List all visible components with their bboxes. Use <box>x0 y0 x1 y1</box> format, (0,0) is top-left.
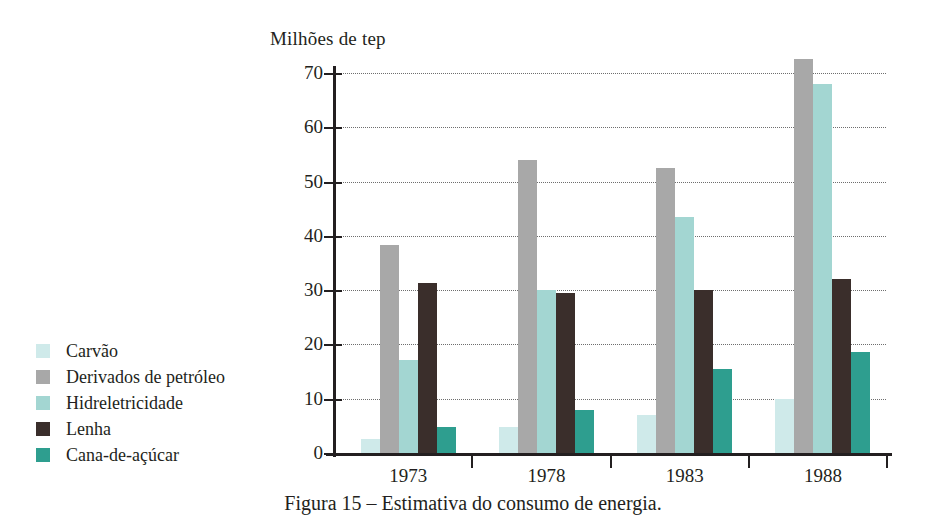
bar-group <box>361 73 456 453</box>
plot-area <box>333 73 886 453</box>
figure-caption: Figura 15 – Estimativa do consumo de ene… <box>0 492 946 515</box>
legend-swatch-icon <box>36 370 50 384</box>
bar[interactable] <box>775 399 794 453</box>
legend: CarvãoDerivados de petróleoHidreletricid… <box>36 338 225 468</box>
bar[interactable] <box>437 427 456 453</box>
y-axis-tick-label: 40 <box>304 225 323 247</box>
y-axis-tick-label: 60 <box>304 116 323 138</box>
bar[interactable] <box>537 290 556 453</box>
y-axis-tick <box>324 127 342 129</box>
y-axis-tick-label: 20 <box>304 333 323 355</box>
legend-item-label: Derivados de petróleo <box>66 367 225 388</box>
legend-item[interactable]: Cana-de-açúcar <box>36 442 225 468</box>
legend-item[interactable]: Derivados de petróleo <box>36 364 225 390</box>
legend-swatch-icon <box>36 396 50 410</box>
y-axis-tick-label: 30 <box>304 279 323 301</box>
bar[interactable] <box>418 283 437 453</box>
y-axis-tick <box>324 73 342 75</box>
x-axis-tick-label: 1988 <box>755 465 890 487</box>
y-axis-tick <box>324 236 342 238</box>
bar[interactable] <box>675 217 694 453</box>
y-axis-tick-label: 50 <box>304 171 323 193</box>
bar[interactable] <box>813 84 832 453</box>
y-axis-tick-label: 0 <box>314 442 324 464</box>
bar-group <box>499 73 594 453</box>
bar[interactable] <box>380 245 399 453</box>
bar[interactable] <box>794 59 813 453</box>
bar[interactable] <box>656 168 675 453</box>
bar-group <box>637 73 732 453</box>
legend-item-label: Carvão <box>66 341 118 362</box>
y-axis-tick-label: 10 <box>304 388 323 410</box>
legend-item[interactable]: Lenha <box>36 416 225 442</box>
x-axis-tick-label: 1978 <box>479 465 614 487</box>
bar-group <box>775 73 870 453</box>
y-axis-tick <box>324 399 342 401</box>
y-axis-tick <box>324 453 342 455</box>
bar[interactable] <box>499 427 518 453</box>
y-axis-labels: 010203040506070 <box>281 73 323 453</box>
bar[interactable] <box>556 293 575 453</box>
bar[interactable] <box>518 160 537 453</box>
legend-item-label: Cana-de-açúcar <box>66 445 179 466</box>
bar[interactable] <box>851 352 870 454</box>
y-axis-tick <box>324 344 342 346</box>
y-axis-tick <box>324 182 342 184</box>
bar[interactable] <box>637 415 656 453</box>
figure-container: Milhões de tep 010203040506070 197319781… <box>0 0 946 526</box>
bar[interactable] <box>399 360 418 453</box>
bar[interactable] <box>832 279 851 453</box>
legend-swatch-icon <box>36 344 50 358</box>
y-axis-tick-label: 70 <box>304 62 323 84</box>
bar[interactable] <box>575 410 594 453</box>
legend-item-label: Hidreletricidade <box>66 393 183 414</box>
x-axis-tick-label: 1973 <box>341 465 476 487</box>
legend-item[interactable]: Carvão <box>36 338 225 364</box>
legend-swatch-icon <box>36 448 50 462</box>
legend-swatch-icon <box>36 422 50 436</box>
y-axis-tick <box>324 290 342 292</box>
legend-item[interactable]: Hidreletricidade <box>36 390 225 416</box>
bar[interactable] <box>694 290 713 453</box>
legend-item-label: Lenha <box>66 419 111 440</box>
x-axis-tick-label: 1983 <box>617 465 752 487</box>
y-axis-title: Milhões de tep <box>270 28 386 50</box>
bar[interactable] <box>713 369 732 453</box>
bar[interactable] <box>361 439 380 453</box>
